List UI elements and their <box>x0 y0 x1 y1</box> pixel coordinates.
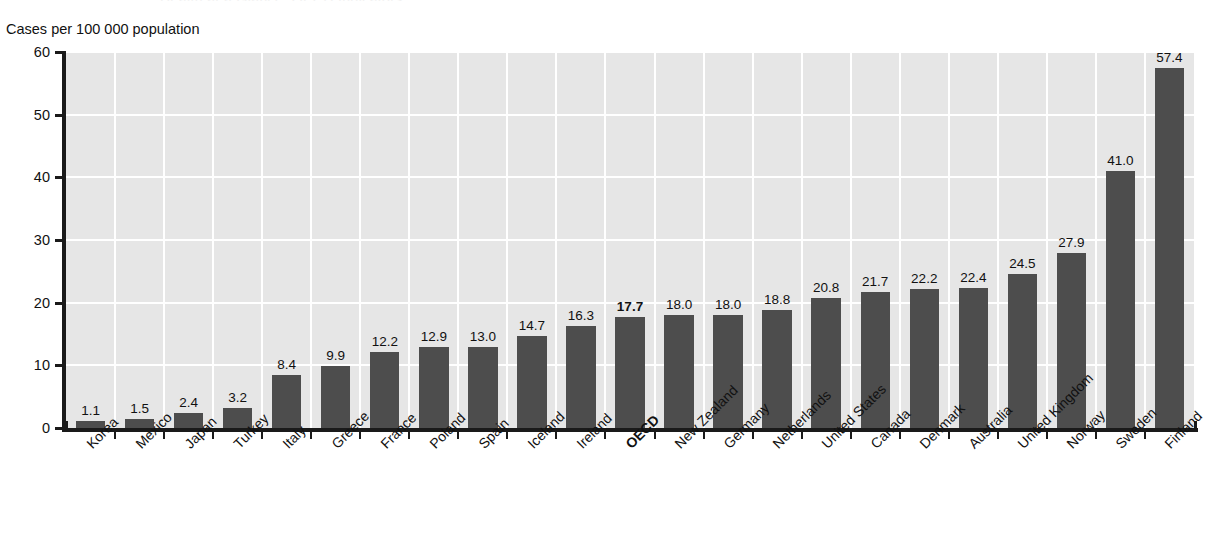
x-axis-tick-mark <box>703 432 705 439</box>
x-axis-tick-mark <box>899 432 901 439</box>
gridline-vertical <box>359 52 361 428</box>
x-axis-tick-mark <box>163 432 165 439</box>
bar-value-label: 22.4 <box>943 271 1003 285</box>
bar-value-label: 24.5 <box>992 257 1052 271</box>
bar[interactable] <box>419 347 448 428</box>
x-axis-tick-mark <box>850 432 852 439</box>
bar[interactable] <box>1155 68 1184 428</box>
bar[interactable] <box>615 317 644 428</box>
bar-value-label: 18.8 <box>747 293 807 307</box>
x-axis-tick-mark <box>654 432 656 439</box>
gridline-vertical <box>899 52 901 428</box>
bar[interactable] <box>1106 171 1135 428</box>
bar[interactable] <box>272 375 301 428</box>
y-axis-tick-label: 30 <box>6 233 50 248</box>
y-axis-tick-label: 60 <box>6 45 50 60</box>
bar-value-label: 41.0 <box>1090 154 1150 168</box>
bar[interactable] <box>468 347 497 428</box>
x-axis-tick-mark <box>408 432 410 439</box>
x-axis-tick-mark <box>506 432 508 439</box>
y-axis-caption: Cases per 100 000 population <box>6 22 199 37</box>
x-axis-tick-mark <box>310 432 312 439</box>
gridline-vertical <box>850 52 852 428</box>
x-axis-tick-mark <box>359 432 361 439</box>
x-axis-tick-mark <box>261 432 263 439</box>
bar-value-label: 57.4 <box>1139 51 1199 65</box>
gridline-vertical <box>801 52 803 428</box>
bar-chart-figure: Health at a Glance: OECD Indicators Case… <box>0 0 1216 549</box>
gridline-vertical <box>506 52 508 428</box>
x-axis-tick-mark <box>114 432 116 439</box>
bar[interactable] <box>664 315 693 428</box>
gridline-vertical <box>997 52 999 428</box>
x-axis-tick-mark <box>801 432 803 439</box>
gridline-vertical <box>1144 52 1146 428</box>
y-axis-tick-label: 50 <box>6 108 50 123</box>
gridline-vertical <box>457 52 459 428</box>
gridline-vertical <box>212 52 214 428</box>
gridline-horizontal <box>66 51 1194 53</box>
y-axis-tick-mark <box>55 176 63 179</box>
x-axis-tick-mark <box>997 432 999 439</box>
bar[interactable] <box>910 289 939 428</box>
gridline-horizontal <box>66 239 1194 241</box>
gridline-horizontal <box>66 114 1194 116</box>
y-axis-tick-mark <box>55 302 63 305</box>
y-axis-tick-label: 40 <box>6 170 50 185</box>
y-axis-tick-mark <box>55 114 63 117</box>
y-axis-tick-mark <box>55 51 63 54</box>
y-axis-tick-label: 20 <box>6 296 50 311</box>
gridline-vertical <box>555 52 557 428</box>
gridline-vertical <box>163 52 165 428</box>
bar[interactable] <box>1008 274 1037 428</box>
gridline-vertical <box>114 52 116 428</box>
y-axis-tick-label: 0 <box>6 421 50 436</box>
gridline-vertical <box>604 52 606 428</box>
x-axis-tick-mark <box>457 432 459 439</box>
bar-value-label: 9.9 <box>306 349 366 363</box>
y-axis-tick-mark <box>55 239 63 242</box>
x-axis-tick-mark <box>752 432 754 439</box>
gridline-vertical <box>408 52 410 428</box>
cut-off-title-remnant: Health at a Glance: OECD Indicators <box>160 0 960 1</box>
bar-value-label: 27.9 <box>1041 236 1101 250</box>
gridline-vertical <box>948 52 950 428</box>
bar-value-label: 3.2 <box>208 391 268 405</box>
gridline-vertical <box>752 52 754 428</box>
x-axis-tick-mark <box>212 432 214 439</box>
x-axis-tick-mark <box>555 432 557 439</box>
bar[interactable] <box>370 352 399 428</box>
y-axis-tick-label: 10 <box>6 358 50 373</box>
x-axis-tick-mark <box>1144 432 1146 439</box>
bar[interactable] <box>566 326 595 428</box>
bar[interactable] <box>517 336 546 428</box>
x-axis-tick-mark <box>948 432 950 439</box>
bar[interactable] <box>321 366 350 428</box>
gridline-vertical <box>654 52 656 428</box>
x-axis-tick-mark <box>1095 432 1097 439</box>
x-axis-tick-mark <box>604 432 606 439</box>
gridline-horizontal <box>66 176 1194 178</box>
gridline-vertical <box>703 52 705 428</box>
plot-area <box>66 52 1194 428</box>
x-axis-tick-mark <box>1046 432 1048 439</box>
y-axis-tick-mark <box>55 427 63 430</box>
x-axis-end-cap <box>65 421 68 432</box>
y-axis-tick-mark <box>55 364 63 367</box>
